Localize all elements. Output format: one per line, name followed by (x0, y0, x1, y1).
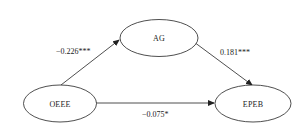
edge-label-oeee-ag: −0.226*** (56, 47, 91, 56)
node-label-epeb: EPEB (243, 100, 263, 109)
path-diagram: −0.226*** 0.181*** −0.075* AG OEEE EPEB (0, 0, 307, 125)
node-ag: AG (120, 20, 198, 57)
edge-oeee-ag: −0.226*** (56, 40, 119, 85)
node-label-oeee: OEEE (49, 100, 70, 109)
node-epeb: EPEB (215, 85, 291, 122)
node-oeee: OEEE (24, 85, 97, 122)
edge-ag-epeb: 0.181*** (194, 42, 252, 85)
node-label-ag: AG (153, 34, 165, 43)
edge-label-oeee-epeb: −0.075* (142, 110, 169, 119)
edge-label-ag-epeb: 0.181*** (220, 48, 250, 57)
edge-oeee-epeb: −0.075* (96, 103, 214, 119)
